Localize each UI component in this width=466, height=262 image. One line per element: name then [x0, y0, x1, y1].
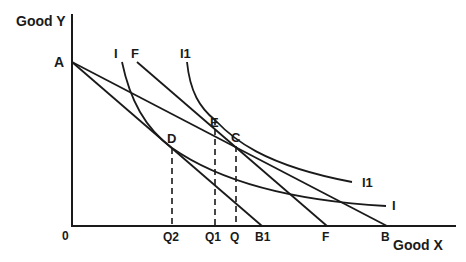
point-c-label: C [231, 130, 241, 145]
tick-f-label: F [322, 230, 329, 244]
tick-q2-label: Q2 [163, 230, 179, 244]
tick-q1-label: Q1 [205, 230, 221, 244]
origin-label: 0 [62, 229, 69, 243]
point-e-label: E [210, 115, 219, 130]
tick-q2-text: Q2 [163, 230, 179, 244]
y-axis-label: Good Y [16, 13, 66, 29]
economics-diagram: Good Y Good X 0 A D E C I F I1 I1 I Q2 Q… [0, 0, 466, 262]
line-f-top-label: F [131, 46, 139, 61]
tick-q-label: Q [230, 230, 239, 244]
curve-i1-top-label: I1 [180, 46, 191, 61]
curve-i1-right-label: I1 [362, 175, 373, 190]
point-d-label: D [167, 131, 176, 146]
curve-i-top-label: I [114, 46, 118, 61]
x-axis-label: Good X [393, 237, 443, 253]
curve-i-right-label: I [392, 198, 396, 213]
tick-b-label: B [381, 230, 390, 244]
tick-b1-label: B1 [255, 230, 271, 244]
point-a-label: A [54, 54, 64, 70]
